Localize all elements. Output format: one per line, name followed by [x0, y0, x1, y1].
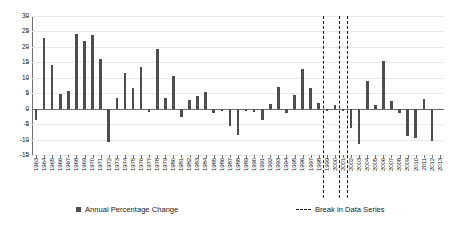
bar	[188, 100, 191, 109]
bar	[172, 76, 175, 109]
x-axis-labels: 1963196419651966196719681969197019711972…	[32, 158, 444, 198]
x-tick-label: 1968	[73, 158, 79, 171]
x-tick-label: 2010	[413, 158, 419, 171]
bar	[75, 34, 78, 109]
x-tick-label: 2002	[348, 158, 354, 171]
x-tick-label: 1996	[299, 158, 305, 171]
bar	[237, 109, 240, 135]
bar	[156, 49, 159, 109]
bar	[390, 101, 393, 109]
x-tick-label: 1997	[308, 158, 314, 171]
x-tick-label: 1999	[324, 158, 330, 171]
dashed-line-icon	[296, 209, 311, 210]
bar	[439, 109, 442, 111]
bars-layer	[32, 16, 444, 155]
x-tick-label: 1985	[211, 158, 217, 171]
bar	[35, 109, 38, 121]
x-tick-label: 2013	[437, 158, 443, 171]
x-tick-label: 1973	[114, 158, 120, 171]
x-tick-label: 1979	[162, 158, 168, 171]
x-tick-label: 1984	[202, 158, 208, 171]
x-tick-label: 1972	[106, 158, 112, 171]
y-tick-mark	[26, 78, 29, 79]
bar	[212, 109, 215, 113]
bar	[423, 99, 426, 109]
x-tick-label: 1987	[227, 158, 233, 171]
bar	[269, 104, 272, 109]
bar	[334, 105, 337, 109]
bar	[229, 109, 232, 126]
x-tick-label: 1990	[251, 158, 257, 171]
bar	[91, 35, 94, 109]
x-tick-label: 2011	[421, 158, 427, 171]
legend-label-series: Annual Percentage Change	[85, 206, 178, 214]
x-tick-label: 1991	[259, 158, 265, 171]
y-tick-mark	[26, 47, 29, 48]
x-tick-label: 1975	[130, 158, 136, 171]
y-tick-mark	[26, 31, 29, 32]
x-tick-label: 2008	[396, 158, 402, 171]
bar	[301, 69, 304, 109]
bar	[107, 109, 110, 142]
bar	[196, 96, 199, 108]
x-tick-label: 1977	[146, 158, 152, 171]
bar	[293, 95, 296, 109]
x-tick-label: 1983	[194, 158, 200, 171]
x-tick-label: 2000	[332, 158, 338, 171]
bar	[374, 105, 377, 109]
bar	[285, 109, 288, 114]
x-tick-label: 1966	[57, 158, 63, 171]
x-tick-label: 1988	[235, 158, 241, 171]
x-tick-label: 1992	[267, 158, 273, 171]
x-tick-label: 1974	[122, 158, 128, 171]
x-tick-label: 1989	[243, 158, 249, 171]
legend-swatch-icon	[76, 207, 81, 212]
bar	[253, 109, 256, 113]
y-tick-mark	[26, 124, 29, 125]
bar	[51, 65, 54, 108]
x-tick-label: 1995	[291, 158, 297, 171]
x-tick-label: 1963	[33, 158, 39, 171]
y-tick-mark	[26, 109, 29, 110]
bar	[382, 61, 385, 108]
bar	[431, 109, 434, 141]
x-tick-label: 2009	[404, 158, 410, 171]
bar	[406, 109, 409, 136]
bar	[132, 88, 135, 109]
legend-label-break: Break in Data Series	[315, 206, 385, 214]
bar	[342, 109, 345, 112]
bar	[309, 88, 312, 108]
bar	[398, 109, 401, 113]
bar	[99, 59, 102, 109]
x-tick-label: 1967	[65, 158, 71, 171]
bar	[116, 98, 119, 109]
bar	[414, 109, 417, 139]
bar	[83, 41, 86, 109]
bar	[164, 98, 167, 109]
legend-item-break-in-data-series: Break in Data Series	[296, 206, 385, 214]
bar	[180, 109, 183, 117]
bar	[43, 38, 46, 109]
bar	[326, 109, 329, 111]
bar	[317, 103, 320, 109]
y-tick-mark	[26, 16, 29, 17]
bar	[59, 94, 62, 109]
bar	[124, 73, 127, 108]
x-tick-label: 1980	[170, 158, 176, 171]
bar	[261, 109, 264, 120]
y-tick-mark	[26, 62, 29, 63]
x-tick-label: 1994	[283, 158, 289, 171]
x-tick-label: 1981	[178, 158, 184, 171]
y-tick-mark	[26, 93, 29, 94]
bar	[221, 109, 224, 111]
bar	[67, 91, 70, 108]
x-tick-label: 1982	[186, 158, 192, 171]
plot-area	[32, 16, 444, 155]
bar	[148, 109, 151, 112]
bar	[358, 109, 361, 145]
x-tick-label: 1964	[41, 158, 47, 171]
x-tick-label: 2004	[364, 158, 370, 171]
x-tick-label: 1993	[275, 158, 281, 171]
x-tick-label: 1971	[97, 158, 103, 171]
x-tick-label: 1970	[89, 158, 95, 171]
